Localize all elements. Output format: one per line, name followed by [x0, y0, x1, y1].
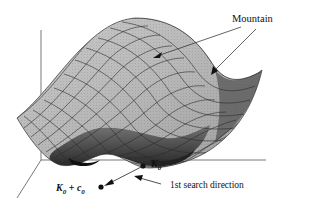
- arrowhead-icon: [104, 179, 114, 186]
- depth-axis: [17, 160, 41, 198]
- k0-plus-c0-label: K0 + c0: [55, 182, 85, 196]
- step-arrow: [108, 166, 143, 184]
- mountain-surface: [0, 0, 312, 205]
- mountain-label: Mountain: [232, 13, 274, 24]
- search-direction-label: 1st search direction: [170, 180, 244, 190]
- arrowhead-icon: [134, 175, 143, 181]
- mountain-surface-diagram: Mountain K0 K0 + c0 1st search direction: [0, 0, 312, 205]
- k0-plus-c0-point: [98, 184, 103, 189]
